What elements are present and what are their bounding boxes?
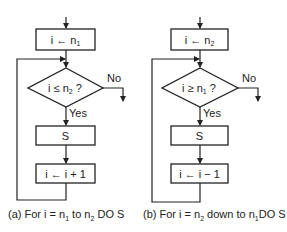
no-exit-arrow-a bbox=[103, 88, 123, 101]
update-label-a: i ← i + 1 bbox=[45, 168, 86, 180]
no-exit-arrow-b bbox=[238, 88, 258, 101]
init-label-b: i ← n2 bbox=[185, 34, 215, 47]
yes-label-a: Yes bbox=[69, 107, 87, 119]
condition-label-a: i ≤ n2 ? bbox=[48, 82, 82, 95]
flowchart-canvas: i ← n1 i ≤ n2 ? No Yes S i ← i + 1 i ← n… bbox=[0, 0, 287, 232]
condition-label-b: i ≥ n1 ? bbox=[182, 82, 216, 95]
caption-a: (a) For i = n1 to n2 DO S bbox=[8, 208, 124, 222]
init-label-a: i ← n1 bbox=[51, 34, 81, 47]
flowchart-b: i ← n2 i ≥ n1 ? No Yes S i ← i − 1 bbox=[152, 17, 258, 202]
body-label-b: S bbox=[196, 130, 203, 142]
caption-b: (b) For i = n2 down to n1DO S bbox=[143, 208, 286, 222]
no-label-a: No bbox=[107, 72, 121, 84]
no-label-b: No bbox=[242, 72, 256, 84]
yes-label-b: Yes bbox=[203, 107, 221, 119]
body-label-a: S bbox=[62, 130, 69, 142]
flowchart-a: i ← n1 i ≤ n2 ? No Yes S i ← i + 1 bbox=[17, 17, 123, 200]
update-label-b: i ← i − 1 bbox=[179, 168, 220, 180]
